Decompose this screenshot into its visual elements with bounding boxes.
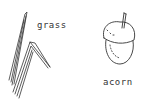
acorn-label: acorn	[103, 77, 133, 87]
grass-label: grass	[37, 20, 67, 30]
acorn-icon	[0, 0, 142, 106]
